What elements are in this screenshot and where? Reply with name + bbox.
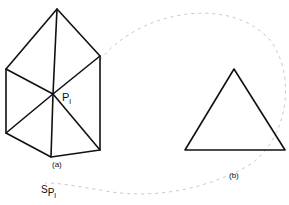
edge-apex-center bbox=[53, 9, 57, 94]
vertex-label-p: Pl bbox=[62, 91, 71, 106]
edge-upperright-center bbox=[53, 56, 100, 94]
figure-b-triangle bbox=[185, 69, 285, 150]
diagram-canvas: Pl (a) (b) SPl bbox=[0, 0, 289, 205]
mapping-curve bbox=[45, 13, 286, 194]
caption-b: (b) bbox=[229, 171, 239, 180]
caption-a: (a) bbox=[52, 160, 62, 169]
edge-lowerright-center bbox=[53, 94, 100, 150]
star-label-s: SPl bbox=[41, 184, 56, 200]
edge-lowerleft-center bbox=[6, 94, 53, 133]
edge-upperleft-center bbox=[6, 69, 53, 94]
edge-bottom-center bbox=[51, 94, 53, 157]
figure-a-star-complex bbox=[6, 9, 100, 157]
